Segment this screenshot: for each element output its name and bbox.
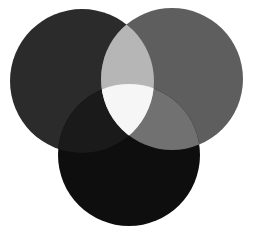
- venn-diagram: [0, 0, 254, 229]
